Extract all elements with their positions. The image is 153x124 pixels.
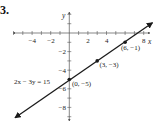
point-label-6-m1: (6, −1)	[121, 44, 141, 52]
x-tick-label--2: −2	[47, 37, 55, 45]
x-tick-label-8: 8	[142, 37, 146, 45]
x-tick-label-2: 2	[86, 37, 90, 45]
equation-label: 2x − 3y = 15	[14, 78, 50, 86]
point-label-3-m3: (3, −3)	[100, 61, 120, 69]
x-axis-label: x	[147, 37, 152, 46]
point-0-m5	[68, 78, 72, 82]
x-tick-label--4: −4	[29, 37, 37, 45]
graph: 3. x y −4 −2 2 4 8	[0, 0, 153, 124]
y-axis-label: y	[61, 11, 66, 20]
y-tick-label--4: −4	[59, 67, 67, 75]
y-tick-label--2: −2	[59, 48, 67, 56]
y-tick-label--8: −8	[59, 104, 67, 112]
point-label-0-m5: (0, −5)	[72, 80, 92, 88]
x-tick-label-4: 4	[105, 37, 109, 45]
problem-number: 3.	[0, 3, 9, 17]
point-3-m3	[95, 59, 99, 63]
